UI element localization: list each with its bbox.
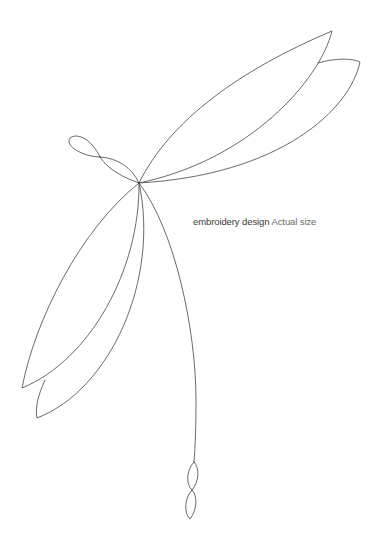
head-loop-large <box>100 157 139 183</box>
embroidery-design-canvas: embroidery design Actual size <box>0 0 386 544</box>
tail-loop-bottom <box>186 490 196 519</box>
caption: embroidery design Actual size <box>193 216 316 227</box>
lower-wing-front <box>22 183 139 388</box>
caption-subtitle: Actual size <box>271 216 316 227</box>
dragonfly-drawing <box>0 0 386 544</box>
lower-wing-back <box>36 183 143 418</box>
upper-wing-back <box>139 59 360 183</box>
upper-wing-front <box>139 31 332 183</box>
head-loop-small <box>69 136 100 157</box>
tail-loop-top <box>188 462 198 490</box>
caption-title: embroidery design <box>193 216 269 227</box>
body-line <box>139 183 196 462</box>
